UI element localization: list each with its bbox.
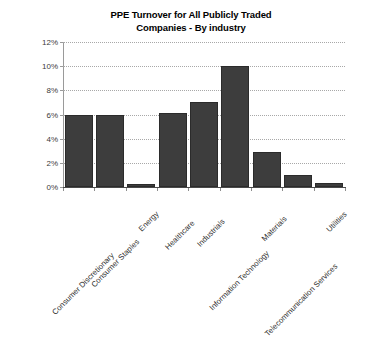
x-tick-mark — [282, 188, 283, 191]
x-tick-label: Consumer Discretionary — [50, 251, 116, 317]
gridline — [63, 66, 345, 67]
bar — [127, 184, 155, 187]
y-tick-label: 12% — [42, 38, 58, 47]
y-tick-mark — [60, 90, 63, 91]
x-tick-mark — [345, 188, 346, 191]
bar — [190, 102, 218, 187]
gridline — [63, 42, 345, 43]
bar — [159, 113, 187, 187]
x-tick-label: Information Technology — [208, 249, 271, 312]
y-tick-label: 4% — [46, 134, 58, 143]
x-tick-label-wrapper: Utilities — [343, 192, 367, 216]
bar — [315, 183, 343, 187]
y-tick-mark — [60, 163, 63, 164]
y-tick-mark — [60, 66, 63, 67]
x-tick-mark — [94, 188, 95, 191]
y-tick-label: 10% — [42, 62, 58, 71]
y-tick-label: 0% — [46, 183, 58, 192]
bar — [65, 115, 93, 187]
x-tick-mark — [220, 188, 221, 191]
y-tick-mark — [60, 42, 63, 43]
y-tick-mark — [60, 139, 63, 140]
x-tick-mark — [63, 188, 64, 191]
y-tick-label: 6% — [46, 110, 58, 119]
bar — [284, 175, 312, 187]
x-tick-mark — [314, 188, 315, 191]
plot-area — [63, 42, 345, 187]
y-tick-label: 8% — [46, 86, 58, 95]
y-tick-label: 2% — [46, 158, 58, 167]
y-tick-mark — [60, 115, 63, 116]
x-tick-mark — [188, 188, 189, 191]
chart-title-line-1: PPE Turnover for All Publicly Traded — [60, 9, 322, 22]
x-tick-label: Industrials — [195, 217, 226, 248]
x-tick-label: Telecommunication Services — [263, 262, 339, 338]
chart-title-line-2: Companies - By industry — [60, 22, 322, 35]
bar — [253, 152, 281, 187]
gridline — [63, 90, 345, 91]
bar — [221, 66, 249, 187]
x-tick-label: Healthcare — [163, 219, 196, 252]
x-axis-line — [63, 187, 346, 188]
x-tick-label: Utilities — [325, 210, 349, 234]
x-tick-mark — [251, 188, 252, 191]
chart-title: PPE Turnover for All Publicly Traded Com… — [60, 9, 322, 34]
x-tick-mark — [126, 188, 127, 191]
x-tick-label-wrapper: Industrials — [220, 192, 251, 223]
x-tick-mark — [157, 188, 158, 191]
bar — [96, 115, 124, 187]
